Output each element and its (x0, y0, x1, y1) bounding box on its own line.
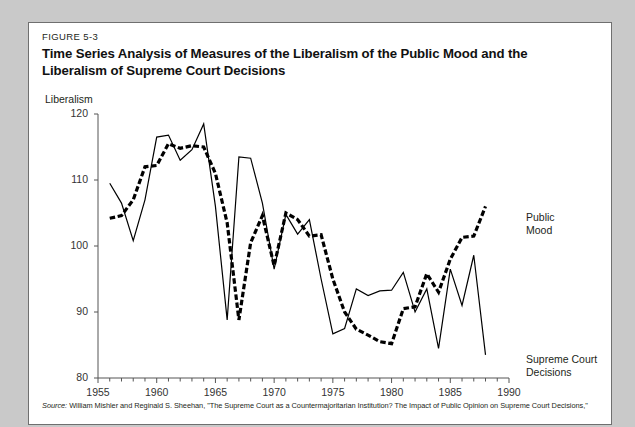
series-label-line: Public (526, 211, 555, 224)
x-tick-1955: 1955 (78, 386, 118, 398)
chart-plot-area: Liberalism 8090100110120 195519601965197… (29, 23, 612, 425)
x-tick-1960: 1960 (137, 386, 177, 398)
x-tick-1965: 1965 (195, 386, 235, 398)
y-tick-120: 120 (60, 107, 88, 119)
series-label-line: Mood (526, 224, 555, 237)
y-tick-90: 90 (60, 305, 88, 317)
y-tick-110: 110 (60, 173, 88, 185)
series-line-public-mood (110, 144, 486, 344)
series-label-public-mood: PublicMood (526, 211, 555, 236)
line-chart (29, 23, 612, 425)
x-tick-1970: 1970 (254, 386, 294, 398)
page-background: FIGURE 5-3 Time Series Analysis of Measu… (0, 0, 635, 427)
x-tick-1990: 1990 (489, 386, 529, 398)
figure-source: Source: William Mishler and Reginald S. … (42, 401, 608, 410)
chart-series (110, 124, 486, 355)
y-tick-100: 100 (60, 239, 88, 251)
x-tick-1985: 1985 (430, 386, 470, 398)
x-tick-1980: 1980 (372, 386, 412, 398)
x-tick-1975: 1975 (313, 386, 353, 398)
source-text: William Mishler and Reginald S. Sheehan,… (67, 401, 588, 410)
y-tick-80: 80 (60, 371, 88, 383)
chart-axes (94, 114, 509, 383)
figure-container: FIGURE 5-3 Time Series Analysis of Measu… (28, 22, 612, 425)
series-label-line: Decisions (526, 366, 597, 379)
series-label-line: Supreme Court (526, 353, 597, 366)
y-axis-title: Liberalism (45, 93, 93, 105)
series-line-supreme-court-decisions (110, 124, 486, 355)
source-label: Source: (42, 401, 67, 410)
series-label-supreme-court-decisions: Supreme CourtDecisions (526, 353, 597, 378)
